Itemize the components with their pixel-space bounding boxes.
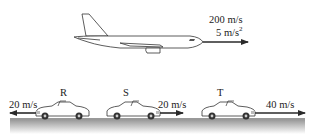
- car-s-label: S: [123, 88, 129, 99]
- car-t-velocity-label: 40 m/s: [266, 100, 294, 111]
- airplane-icon: [74, 14, 203, 53]
- airplane-acceleration-label: 5 m/s2: [216, 28, 243, 39]
- car-s-icon: [107, 101, 160, 120]
- car-r-label: R: [60, 88, 67, 99]
- car-t-icon: [202, 101, 255, 120]
- car-r-icon: [36, 101, 89, 120]
- acceleration-value: 5 m/s: [216, 27, 239, 38]
- road-shadow: [10, 120, 305, 134]
- diagram-canvas: [0, 0, 327, 140]
- airplane-velocity-label: 200 m/s: [209, 15, 243, 26]
- car-r-velocity-label: 20 m/s: [9, 100, 37, 111]
- car-t-label: T: [217, 88, 223, 99]
- acceleration-exponent: 2: [239, 25, 243, 33]
- car-s-velocity-label: 20 m/s: [158, 100, 186, 111]
